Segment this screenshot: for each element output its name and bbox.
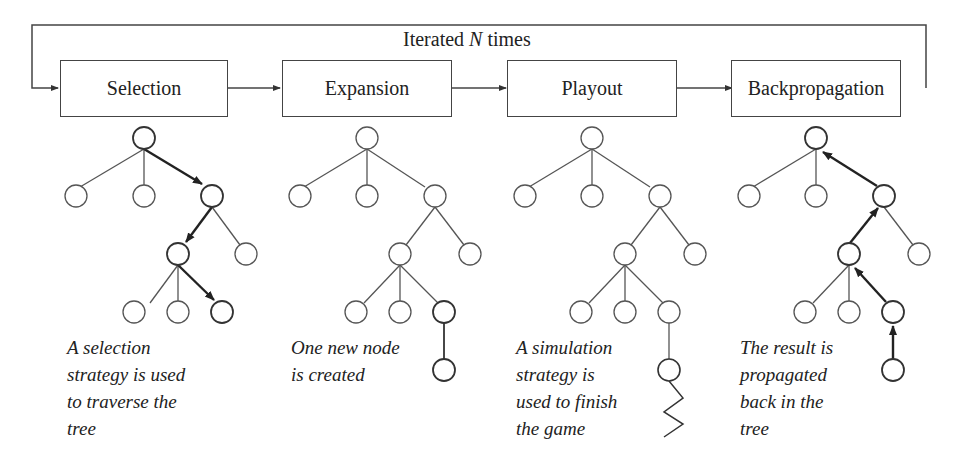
step-box-expansion: Expansion (282, 60, 452, 117)
step-label: Expansion (325, 77, 409, 100)
loop-label-prefix: Iterated (403, 28, 464, 50)
caption-playout: A simulation strategy is used to finish … (516, 334, 617, 442)
step-label: Selection (107, 77, 181, 100)
step-box-backpropagation: Backpropagation (731, 60, 901, 117)
step-label: Backpropagation (748, 77, 885, 100)
step-label: Playout (561, 77, 622, 100)
loop-label-suffix: times (487, 28, 530, 50)
step-box-playout: Playout (507, 60, 677, 117)
caption-backpropagation: The result is propagated back in the tre… (740, 334, 833, 442)
caption-expansion: One new node is created (291, 334, 400, 388)
loop-label: Iterated N times (403, 28, 531, 51)
caption-selection: A selection strategy is used to traverse… (67, 334, 185, 442)
step-box-selection: Selection (60, 60, 228, 117)
loop-label-variable: N (469, 28, 482, 50)
selection-tree (65, 127, 257, 323)
